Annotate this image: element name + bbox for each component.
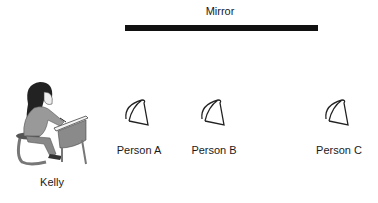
person-a-label: Person A bbox=[117, 144, 162, 156]
person-c-label: Person C bbox=[316, 144, 362, 156]
mirror-label: Mirror bbox=[206, 5, 235, 17]
person-b-label: Person B bbox=[191, 144, 236, 156]
kelly-figure-icon bbox=[10, 78, 92, 170]
person-c-head-icon bbox=[322, 97, 352, 129]
mirror bbox=[125, 25, 318, 31]
person-a-head-icon bbox=[122, 97, 152, 129]
person-b-head-icon bbox=[198, 97, 228, 129]
kelly-label: Kelly bbox=[40, 176, 64, 188]
